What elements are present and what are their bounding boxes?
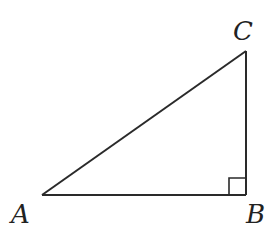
side-ac-hypotenuse xyxy=(42,51,246,195)
vertex-label-c: C xyxy=(233,16,253,46)
vertex-label-b: B xyxy=(245,199,265,229)
vertex-label-a: A xyxy=(9,199,30,229)
right-angle-marker xyxy=(229,178,246,195)
right-triangle-diagram: A B C xyxy=(0,0,275,235)
